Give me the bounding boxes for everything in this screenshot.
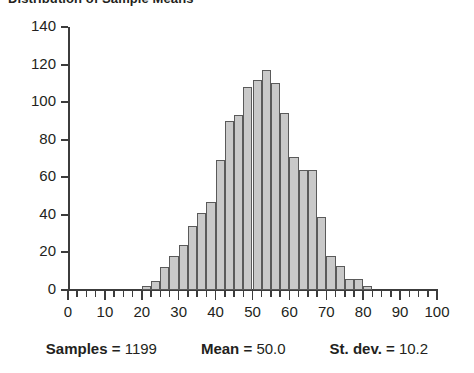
x-axis-tick-minor (196, 291, 198, 297)
chart-title: Distribution of Sample Means (8, 0, 194, 6)
histogram-bar (363, 286, 372, 290)
x-axis-tick-minor (335, 291, 337, 297)
histogram-bar (289, 157, 298, 290)
y-axis-label: 120 (0, 55, 56, 72)
y-axis-label: 80 (0, 130, 56, 147)
x-axis-tick-minor (123, 291, 125, 297)
x-axis-label: 0 (48, 303, 88, 320)
x-axis-label: 80 (343, 303, 383, 320)
histogram-bar (326, 256, 335, 290)
x-axis-tick-minor (160, 291, 162, 297)
x-axis-tick-major (178, 291, 180, 300)
histogram-bar (169, 256, 178, 290)
x-axis-tick-minor (113, 291, 115, 297)
x-axis-tick-minor (381, 291, 383, 297)
y-axis-tick (61, 26, 68, 28)
x-axis-tick-minor (279, 291, 281, 297)
histogram-bar (345, 279, 354, 290)
x-axis-tick-minor (132, 291, 134, 297)
histogram-bar (216, 160, 225, 290)
x-axis-tick-minor (86, 291, 88, 297)
x-axis-tick-major (289, 291, 291, 300)
histogram-bar (160, 267, 169, 290)
stat-samples-label: Samples = (46, 340, 121, 357)
histogram-bar (188, 226, 197, 290)
x-axis-tick-major (436, 291, 438, 300)
x-axis-tick-major (362, 291, 364, 300)
x-axis-tick-minor (353, 291, 355, 297)
histogram-bar (225, 121, 234, 290)
x-axis-tick-minor (233, 291, 235, 297)
x-axis-label: 60 (269, 303, 309, 320)
x-axis-label: 70 (306, 303, 346, 320)
stats-row: Samples = 1199 Mean = 50.0 St. dev. = 10… (0, 336, 474, 360)
histogram-bar (280, 113, 289, 290)
x-axis-label: 20 (122, 303, 162, 320)
stat-stdev-value: 10.2 (399, 340, 428, 357)
x-axis-tick-minor (270, 291, 272, 297)
x-axis-tick-minor (261, 291, 263, 297)
histogram-bar (253, 80, 262, 290)
y-axis-label: 140 (0, 17, 56, 34)
y-axis-tick (61, 251, 68, 253)
histogram-bar (179, 245, 188, 290)
histogram-bar (197, 213, 206, 290)
y-axis-label: 40 (0, 205, 56, 222)
x-axis-tick-major (141, 291, 143, 300)
y-axis-label: 100 (0, 92, 56, 109)
y-axis-label: 0 (0, 280, 56, 297)
x-axis-tick-minor (243, 291, 245, 297)
x-axis-tick-minor (298, 291, 300, 297)
y-axis-tick (61, 101, 68, 103)
stat-stdev: St. dev. = 10.2 (330, 340, 429, 357)
x-axis-tick-minor (409, 291, 411, 297)
x-axis-tick-minor (316, 291, 318, 297)
x-axis-tick-minor (150, 291, 152, 297)
histogram-bar (299, 170, 308, 290)
stat-mean-value: 50.0 (256, 340, 285, 357)
histogram-bar (354, 279, 363, 290)
bars-group (68, 27, 437, 290)
y-axis-tick (61, 139, 68, 141)
x-axis-tick-minor (390, 291, 392, 297)
histogram-bar (206, 202, 215, 290)
histogram-bar (234, 115, 243, 290)
x-axis-tick-minor (427, 291, 429, 297)
x-axis-tick-major (104, 291, 106, 300)
histogram-bar (243, 87, 252, 290)
stat-samples-value: 1199 (125, 340, 157, 357)
x-axis-tick-minor (206, 291, 208, 297)
histogram-bar (151, 281, 160, 290)
x-axis-tick-major (215, 291, 217, 300)
x-axis-tick-major (399, 291, 401, 300)
stat-samples: Samples = 1199 (46, 340, 157, 357)
x-axis-label: 50 (233, 303, 273, 320)
x-axis-tick-minor (224, 291, 226, 297)
x-axis-tick-major (326, 291, 328, 300)
x-axis-tick-minor (76, 291, 78, 297)
stat-mean: Mean = 50.0 (201, 340, 286, 357)
x-axis-tick-minor (372, 291, 374, 297)
x-axis-tick-minor (187, 291, 189, 297)
x-axis-tick-minor (344, 291, 346, 297)
x-axis-label: 10 (85, 303, 125, 320)
x-axis-label: 100 (417, 303, 457, 320)
stat-stdev-label: St. dev. = (330, 340, 395, 357)
x-axis-tick-minor (169, 291, 171, 297)
histogram-bar (308, 170, 317, 290)
x-axis-tick-major (252, 291, 254, 300)
histogram-bar (142, 286, 151, 290)
histogram-bar (271, 83, 280, 290)
histogram-bar (336, 266, 345, 290)
x-axis-tick-minor (95, 291, 97, 297)
y-axis-label: 20 (0, 242, 56, 259)
stat-mean-label: Mean = (201, 340, 252, 357)
y-axis-tick (61, 176, 68, 178)
histogram-chart: Distribution of Sample Means 02040608010… (0, 0, 474, 373)
y-axis-label: 60 (0, 167, 56, 184)
histogram-bar (317, 217, 326, 290)
y-axis-tick (61, 64, 68, 66)
x-axis-label: 30 (159, 303, 199, 320)
y-axis-tick (61, 214, 68, 216)
x-axis-tick-major (67, 291, 69, 300)
